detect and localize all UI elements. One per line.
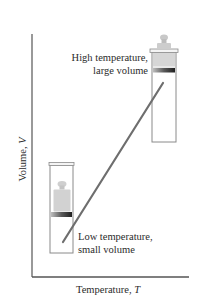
high-temp-line1: High temperature, <box>72 51 148 64</box>
high-temp-line2: large volume <box>72 64 148 77</box>
x-axis-variable: T <box>134 284 140 295</box>
high-temp-cylinder-icon <box>150 35 178 143</box>
diagram-canvas <box>0 0 204 306</box>
low-temp-cylinder-icon <box>49 163 74 254</box>
y-axis-label: Volume, V <box>17 132 28 188</box>
low-temp-line1: Low temperature, <box>78 230 153 243</box>
x-axis-label: Temperature, T <box>76 283 140 296</box>
y-axis-variable: V <box>17 137 28 143</box>
low-temp-line2: small volume <box>78 243 153 256</box>
high-temp-annotation: High temperature, large volume <box>72 51 148 77</box>
low-temp-annotation: Low temperature, small volume <box>78 230 153 256</box>
volume-temperature-line <box>63 83 163 242</box>
